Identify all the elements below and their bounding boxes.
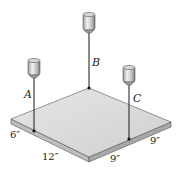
label-b: B xyxy=(91,56,100,69)
dimension-9in-right: 9″ xyxy=(150,135,160,146)
spring-scale-b-icon xyxy=(83,13,95,34)
label-c: C xyxy=(133,92,142,105)
diagram-canvas: A B C 6″ 12″ 9″ 9″ xyxy=(0,0,182,177)
dimension-12in: 12″ xyxy=(42,151,59,162)
label-a: A xyxy=(23,88,32,101)
attachment-point-b xyxy=(87,86,90,89)
plate-top xyxy=(11,88,171,157)
spring-scale-a-icon xyxy=(28,59,40,79)
attachment-point-a xyxy=(32,129,35,132)
plate-diagram: A B C 6″ 12″ 9″ 9″ xyxy=(0,0,182,177)
spring-scale-c-icon xyxy=(123,66,135,86)
dimension-6in: 6″ xyxy=(10,129,20,140)
dimension-9in-front: 9″ xyxy=(110,153,120,164)
plate xyxy=(11,88,171,162)
cable-b xyxy=(83,13,95,90)
attachment-point-c xyxy=(127,137,130,140)
